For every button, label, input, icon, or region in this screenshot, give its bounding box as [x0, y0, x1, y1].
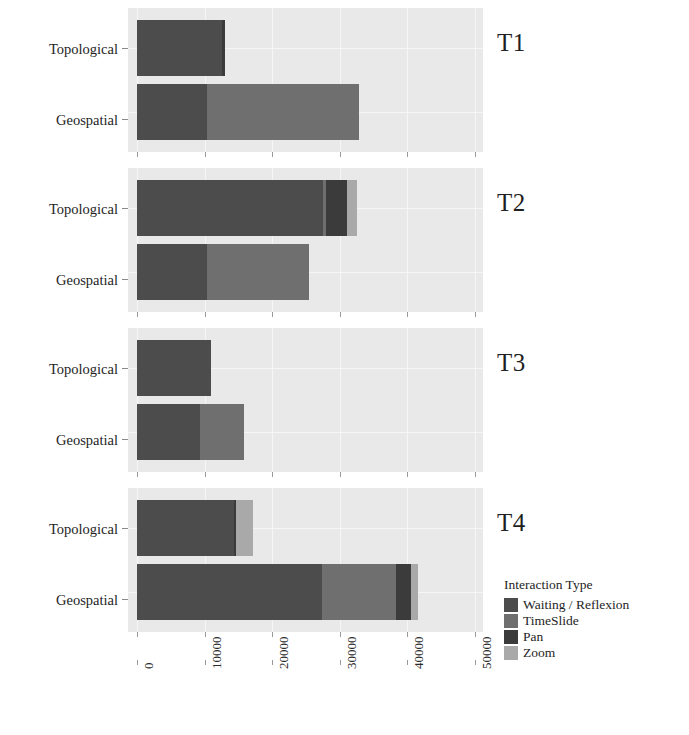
gridline-vertical [407, 328, 408, 472]
x-axis-tick-label: 10000 [210, 637, 223, 670]
plot-panel [128, 328, 483, 472]
x-axis-tick [407, 152, 408, 157]
facet-title: T2 [497, 190, 526, 215]
legend-label: Zoom [523, 646, 555, 660]
panel-x-ticks [128, 152, 483, 158]
y-axis-label-geospatial: Geospatial [56, 433, 118, 448]
gridline-vertical [340, 328, 341, 472]
x-axis: 01000020000300004000050000 [128, 660, 483, 730]
x-axis-tick [475, 312, 476, 317]
x-axis-tick [272, 472, 273, 477]
x-axis-tick [137, 152, 138, 157]
bar-segment [137, 340, 211, 396]
panel-x-ticks [128, 312, 483, 318]
bar-segment [137, 564, 322, 620]
bar-segment [207, 244, 310, 300]
stacked-bar [137, 404, 244, 460]
gridline-vertical [475, 328, 476, 472]
x-axis-tick [137, 312, 138, 317]
plot-panel [128, 168, 483, 312]
legend-item[interactable]: Waiting / Reflexion [504, 598, 684, 612]
x-axis-tick [475, 472, 476, 477]
gridline-vertical [475, 488, 476, 632]
legend-swatch-icon [504, 614, 518, 628]
x-axis-tick [407, 472, 408, 477]
x-axis-tick [475, 660, 476, 665]
x-axis-tick [407, 312, 408, 317]
stacked-bar [137, 244, 309, 300]
x-axis-tick [407, 660, 408, 665]
y-axis-labels: TopologicalGeospatial [0, 480, 128, 640]
y-axis-labels: TopologicalGeospatial [0, 0, 128, 160]
facet-title: T4 [497, 510, 526, 535]
x-axis-tick-label: 50000 [480, 637, 493, 670]
x-axis-tick [340, 632, 341, 637]
x-axis-tick [475, 152, 476, 157]
bar-segment [396, 564, 411, 620]
gridline-vertical [407, 8, 408, 152]
x-axis-tick-label: 0 [142, 663, 155, 670]
legend-swatch-icon [504, 630, 518, 644]
bar-segment [236, 500, 253, 556]
x-axis-tick-label: 20000 [277, 637, 290, 670]
bar-segment [411, 564, 418, 620]
plot-panel [128, 488, 483, 632]
x-axis-tick [340, 152, 341, 157]
x-axis-tick [137, 632, 138, 637]
stacked-bar [137, 180, 357, 236]
bar-segment [200, 404, 245, 460]
legend-label: TimeSlide [523, 614, 579, 628]
stacked-bar [137, 500, 253, 556]
stacked-bar [137, 84, 359, 140]
stacked-bar [137, 564, 418, 620]
bar-segment [137, 180, 323, 236]
y-axis-label-geospatial: Geospatial [56, 593, 118, 608]
legend-item[interactable]: Pan [504, 630, 684, 644]
bar-segment [137, 500, 234, 556]
bar-segment [137, 244, 207, 300]
bar-segment [326, 180, 348, 236]
legend-label: Pan [523, 630, 543, 644]
x-axis-tick [340, 472, 341, 477]
gridline-vertical [475, 168, 476, 312]
x-axis-tick [137, 472, 138, 477]
x-axis-tick [272, 632, 273, 637]
facet-t3: TopologicalGeospatialT3 [0, 320, 689, 480]
panel-x-ticks [128, 472, 483, 478]
gridline-vertical [475, 8, 476, 152]
gridline-vertical [407, 168, 408, 312]
x-axis-tick-label: 40000 [412, 637, 425, 670]
plot-panel [128, 8, 483, 152]
x-axis-tick [137, 660, 138, 665]
legend-swatch-icon [504, 646, 518, 660]
bar-segment [347, 180, 356, 236]
x-axis-tick [340, 312, 341, 317]
faceted-stacked-bar-chart: TopologicalGeospatialT1TopologicalGeospa… [0, 0, 689, 735]
chart-legend: Interaction Type Waiting / ReflexionTime… [504, 578, 684, 662]
bar-segment [222, 20, 225, 76]
legend-label: Waiting / Reflexion [523, 598, 629, 612]
x-axis-tick-label: 30000 [345, 637, 358, 670]
x-axis-tick [205, 472, 206, 477]
x-axis-tick [475, 632, 476, 637]
gridline-vertical [272, 328, 273, 472]
facet-title: T3 [497, 350, 526, 375]
bar-segment [137, 20, 222, 76]
legend-title: Interaction Type [504, 578, 684, 592]
y-axis-label-topological: Topological [49, 202, 118, 217]
facet-t2: TopologicalGeospatialT2 [0, 160, 689, 320]
panel-x-ticks [128, 632, 483, 638]
y-axis-label-topological: Topological [49, 522, 118, 537]
x-axis-tick [272, 152, 273, 157]
legend-items: Waiting / ReflexionTimeSlidePanZoom [504, 598, 684, 660]
y-axis-labels: TopologicalGeospatial [0, 160, 128, 320]
legend-swatch-icon [504, 598, 518, 612]
bar-segment [207, 84, 359, 140]
y-axis-label-topological: Topological [49, 362, 118, 377]
legend-item[interactable]: TimeSlide [504, 614, 684, 628]
y-axis-label-topological: Topological [49, 42, 118, 57]
x-axis-tick [205, 152, 206, 157]
legend-item[interactable]: Zoom [504, 646, 684, 660]
x-axis-tick [205, 660, 206, 665]
y-axis-label-geospatial: Geospatial [56, 113, 118, 128]
